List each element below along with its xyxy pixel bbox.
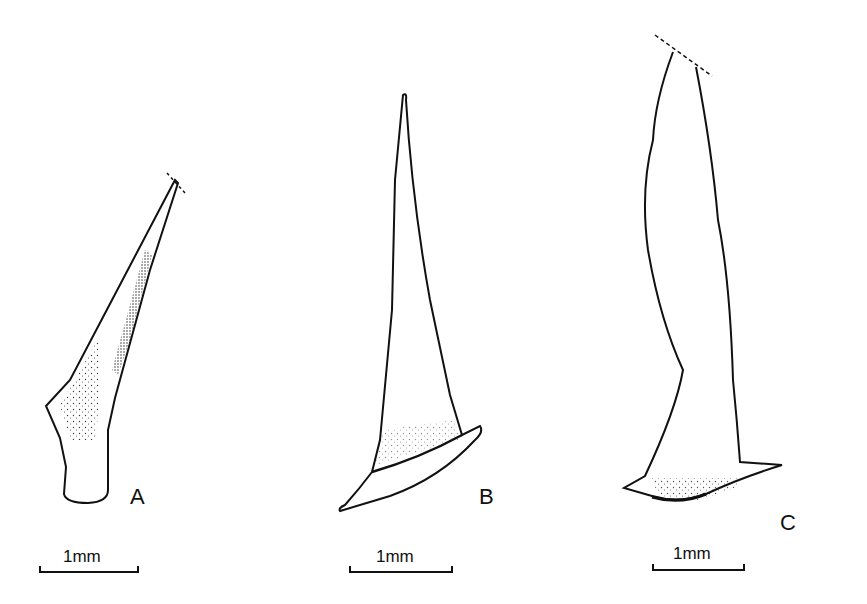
specimen-a [46,173,185,503]
panel-label-b: B [479,484,494,510]
panel-label-a: A [130,484,145,510]
scale-label-b: 1mm [376,547,414,567]
specimen-b [340,94,482,511]
scale-bar-c [653,564,744,570]
figure-drawing [0,0,867,604]
scale-label-c: 1mm [673,544,711,564]
panel-label-c: C [780,510,796,536]
specimen-c [624,35,782,500]
scale-label-a: 1mm [63,547,101,567]
